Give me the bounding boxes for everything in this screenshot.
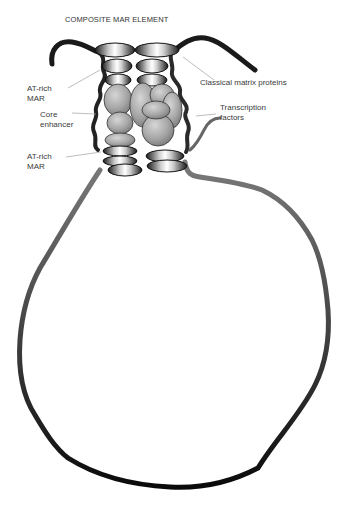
mar-element-diagram: COMPOSITE MAR ELEMENT (0, 0, 345, 505)
chromatin-loop (20, 162, 329, 487)
at-rich-mar-rings (103, 146, 187, 176)
diagram-graphic (0, 0, 345, 505)
label-at-rich-mar-top: AT-rich MAR (27, 84, 52, 104)
label-core-enhancer: Core enhancer (40, 110, 73, 130)
label-classical-matrix-proteins: Classical matrix proteins (200, 78, 287, 88)
label-at-rich-mar-bottom: AT-rich MAR (27, 152, 52, 172)
transcription-factor-blobs (104, 83, 182, 147)
label-transcription-factors: Transcription factors (220, 103, 266, 123)
classical-matrix-proteins (95, 43, 179, 86)
